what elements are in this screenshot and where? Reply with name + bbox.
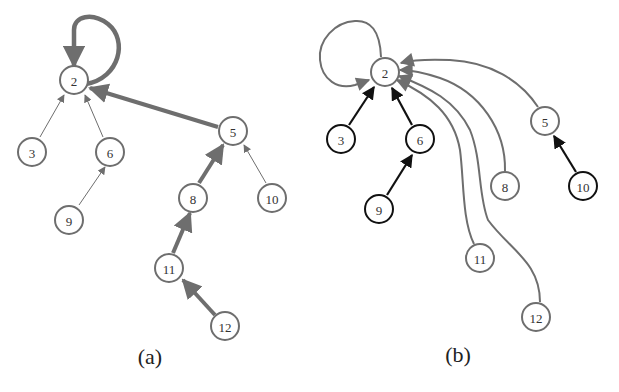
node-a-2: 2: [60, 66, 88, 94]
node-label: 10: [266, 192, 279, 207]
node-label: 11: [474, 252, 487, 267]
figure: 2 3 6 9 5 8 10 11 12 (a) 2 3 6: [0, 0, 619, 392]
edge-b-10-to-5: [554, 136, 576, 172]
node-label: 3: [29, 146, 36, 161]
edge-b-3-to-2: [349, 87, 374, 125]
node-label: 12: [219, 320, 232, 335]
node-label: 6: [417, 133, 424, 148]
node-b-8: 8: [491, 172, 519, 200]
node-b-12: 12: [522, 303, 550, 331]
node-label: 9: [66, 214, 73, 229]
node-label: 2: [382, 66, 389, 81]
caption-b: (b): [445, 342, 471, 367]
node-b-3: 3: [327, 125, 355, 153]
node-label: 5: [230, 125, 237, 140]
node-b-9: 9: [365, 195, 393, 223]
edge-a-8-to-5: [199, 145, 223, 183]
edge-b-8-to-2: [400, 70, 505, 171]
edge-a-3-to-2: [40, 95, 64, 137]
panel-a: 2 3 6 9 5 8 10 11 12 (a): [18, 17, 286, 369]
panel-b: 2 3 6 9 5 8 10 11 12 (b): [320, 21, 597, 367]
node-b-6: 6: [406, 125, 434, 153]
edge-b-6-to-2: [392, 88, 412, 125]
edge-a-10-to-5: [244, 145, 266, 183]
node-label: 2: [71, 74, 78, 89]
edge-a-11-to-8: [173, 213, 190, 253]
edge-b-9-to-6: [387, 155, 412, 195]
node-b-11: 11: [466, 244, 494, 272]
node-b-5: 5: [531, 107, 559, 135]
edge-a-12-to-11: [183, 280, 215, 315]
node-label: 8: [190, 192, 197, 207]
node-b-10: 10: [569, 172, 597, 200]
node-label: 3: [338, 133, 345, 148]
edge-b-5-to-2: [401, 60, 538, 107]
node-a-3: 3: [18, 138, 46, 166]
node-a-10: 10: [258, 184, 286, 212]
node-label: 10: [577, 180, 590, 195]
caption-a: (a): [138, 344, 162, 369]
node-label: 9: [376, 203, 383, 218]
node-a-8: 8: [179, 184, 207, 212]
node-a-12: 12: [211, 312, 239, 340]
edge-a-6-to-2: [85, 95, 103, 137]
node-a-6: 6: [96, 138, 124, 166]
node-a-9: 9: [55, 206, 83, 234]
node-label: 8: [502, 180, 509, 195]
node-a-5: 5: [219, 117, 247, 145]
edges-a: [40, 17, 266, 315]
node-b-2: 2: [371, 58, 399, 86]
edge-a-9-to-6: [79, 167, 105, 205]
edges-b: [320, 21, 576, 302]
node-label: 12: [530, 311, 543, 326]
node-label: 6: [107, 146, 114, 161]
node-a-11: 11: [155, 254, 183, 282]
nodes-b: 2 3 6 9 5 8 10 11 12: [327, 58, 597, 331]
edge-a-5-to-2: [90, 88, 218, 127]
node-label: 11: [163, 262, 176, 277]
node-label: 5: [542, 115, 549, 130]
